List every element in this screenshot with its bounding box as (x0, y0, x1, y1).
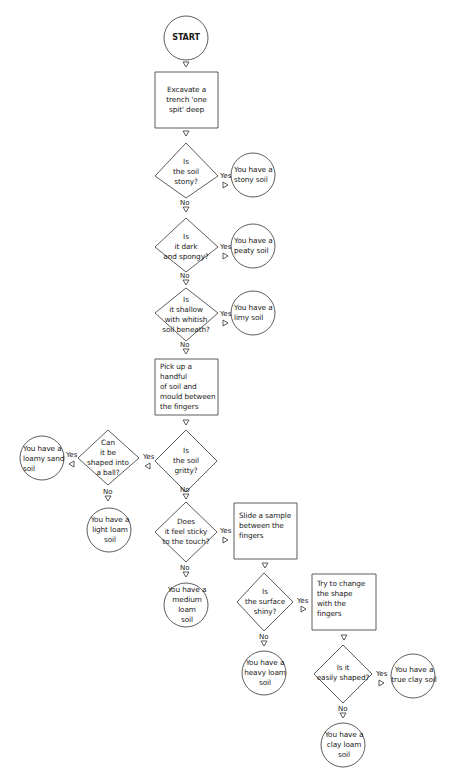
arrow-down-icon (183, 494, 189, 499)
loamy-sand-result-text: You have a loamy sand soil (20, 443, 66, 475)
medium-loam-result-text: You have a medium loam soil (164, 584, 210, 626)
try-change-text: Try to change the shape with the fingers (312, 574, 376, 624)
ball-question: Can it be shaped into a ball? (80, 436, 136, 480)
sticky-question: Does it feel sticky to the touch? (156, 510, 216, 554)
arrow-left-icon (69, 461, 74, 467)
yes-label: Yes (297, 597, 308, 605)
gritty-question: Is the soil gritty? (160, 440, 212, 482)
arrow-right-icon (223, 537, 228, 543)
no-label: No (103, 488, 113, 496)
peaty-question: Is it dark and spongy? (156, 225, 216, 269)
start-label: START (164, 28, 208, 48)
arrow-left-icon (145, 463, 150, 469)
yes-label: Yes (220, 310, 231, 318)
stony-result-text: You have a stony soil (231, 162, 277, 188)
no-label: No (180, 272, 190, 280)
yes-label: Yes (220, 243, 231, 251)
arrow-right-icon (223, 182, 228, 188)
arrow-down-icon (261, 641, 267, 646)
limy-question: Is it shallow with whitish soil beneath? (156, 293, 216, 337)
excavate-text: Excavate a trench 'one spit' deep (155, 72, 218, 128)
arrow-down-icon (341, 635, 347, 640)
arrow-down-icon (262, 563, 268, 568)
arrow-down-icon (183, 280, 189, 285)
arrow-right-icon (379, 680, 384, 686)
no-label: No (180, 564, 190, 572)
arrow-right-icon (223, 253, 228, 259)
peaty-result-text: You have a peaty soil (231, 233, 277, 259)
arrow-right-icon (301, 606, 306, 612)
arrow-down-icon (183, 420, 189, 425)
limy-result-text: You have a limy soil (231, 300, 277, 326)
light-loam-result-text: You have a light loam soil (87, 514, 133, 546)
no-label: No (180, 199, 190, 207)
heavy-loam-result-text: You have a heavy loam soil (242, 657, 288, 689)
yes-label: Yes (220, 527, 231, 535)
arrow-down-icon (183, 131, 189, 136)
stony-question: Is the soil stony? (160, 150, 212, 194)
yes-label: Yes (220, 172, 231, 180)
slide-text: Slide a sample between the fingers (234, 503, 297, 549)
yes-label: Yes (376, 670, 387, 678)
no-label: No (338, 705, 348, 713)
arrow-down-icon (340, 713, 346, 718)
arrow-down-icon (183, 207, 189, 212)
clay-loam-result-text: You have a clay loam soil (320, 733, 368, 757)
yes-label: Yes (66, 451, 77, 459)
no-label: No (180, 341, 190, 349)
no-label: No (180, 486, 190, 494)
pickup-text: Pick up a handful of soil and mould betw… (155, 359, 218, 415)
arrow-down-icon (183, 62, 189, 67)
flowchart-canvas (0, 0, 450, 772)
shiny-question: Is the surface shiny? (240, 581, 290, 623)
arrow-down-icon (183, 572, 189, 577)
true-clay-result-text: You have a true clay soil (391, 663, 437, 687)
easily-shaped-question: Is it easily shaped? (314, 660, 372, 686)
yes-label: Yes (143, 453, 154, 461)
arrow-right-icon (223, 320, 228, 326)
arrow-down-icon (105, 496, 111, 501)
arrow-down-icon (183, 349, 189, 354)
no-label: No (259, 633, 269, 641)
